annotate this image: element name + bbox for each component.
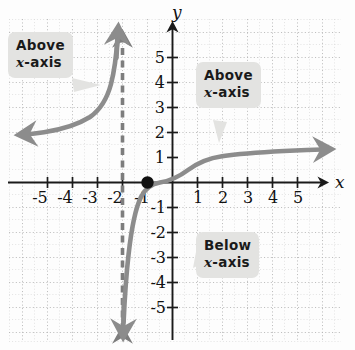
callout-below-x-axis: Below x-axis (196, 232, 259, 278)
callout-line1: Above (204, 67, 253, 83)
x-axis-label: x (335, 172, 345, 192)
x-tick-labels: -5 -4 -3 -2 -1 1 2 3 4 5 (32, 188, 303, 207)
y-tick-label: -4 (150, 273, 166, 292)
callout-line2-rest: -axis (212, 254, 250, 270)
callout-line1: Above (16, 37, 65, 53)
y-tick-label: -1 (150, 198, 166, 217)
x-tick-label: 1 (193, 188, 203, 207)
callout-line2: x-axis (204, 84, 253, 101)
x-tick-label: 4 (268, 188, 278, 207)
y-tick-label: 1 (155, 148, 165, 167)
x-tick-label: 3 (243, 188, 253, 207)
y-tick-label: 3 (155, 98, 165, 117)
y-tick-label: -5 (150, 298, 166, 317)
callout-tail-above-right (213, 120, 227, 143)
graph-figure: -5 -4 -3 -2 -1 1 2 3 4 5 5 4 3 2 1 -1 -2… (0, 0, 355, 350)
curve-left-branch-up-arrow (116, 28, 118, 58)
x-tick-label: 2 (218, 188, 228, 207)
callout-line2-rest: -axis (212, 84, 250, 100)
y-axis-label: y (172, 2, 182, 22)
x-tick-label: -3 (82, 188, 98, 207)
callout-above-x-axis-right: Above x-axis (196, 62, 261, 108)
x-tick-label: -5 (32, 188, 48, 207)
callout-line2-rest: -axis (24, 54, 62, 70)
y-tick-label: -3 (150, 248, 166, 267)
y-tick-label: 2 (155, 123, 165, 142)
y-tick-label: 4 (155, 73, 165, 92)
callout-line2: x-axis (16, 54, 65, 71)
x-tick-label: -2 (107, 188, 123, 207)
callout-above-x-axis-left: Above x-axis (8, 32, 73, 78)
callout-tail-above-left (72, 78, 101, 92)
callout-line1: Below (204, 237, 251, 253)
curve-right-branch-down-arrow (123, 300, 124, 336)
y-tick-label: -2 (150, 223, 166, 242)
x-tick-label: -4 (57, 188, 73, 207)
x-tick-label: 5 (293, 188, 303, 207)
x-intercept-point (141, 176, 153, 188)
callout-line2: x-axis (204, 254, 251, 271)
y-tick-label: 5 (155, 48, 165, 67)
